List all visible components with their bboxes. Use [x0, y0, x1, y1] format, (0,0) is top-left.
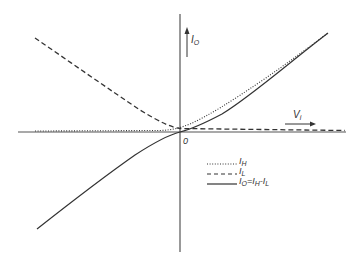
legend-label-ih: IH — [239, 157, 247, 166]
legend-io-l: L — [265, 180, 269, 187]
transfer-characteristic-diagram — [0, 0, 357, 269]
legend-io-sub: O — [242, 180, 247, 187]
legend-label-il: IL — [239, 167, 245, 176]
legend-io-h: H — [255, 180, 260, 187]
legend-il-sub: L — [242, 170, 246, 177]
vi-arrow-head — [310, 122, 316, 127]
x-label-sub: i — [300, 114, 302, 121]
x-label-main: V — [293, 109, 300, 120]
curve-io — [37, 33, 328, 229]
x-axis-label: Vi — [293, 110, 301, 120]
y-label-sub: O — [194, 39, 199, 46]
curve-ih — [35, 33, 328, 131]
legend-label-io: IO=IH-IL — [239, 177, 269, 186]
io-arrow-head — [185, 27, 190, 34]
legend-io-eq: =I — [247, 176, 255, 186]
legend-ih-sub: H — [242, 160, 247, 167]
y-axis-label: IO — [191, 35, 199, 45]
origin-label: 0 — [183, 137, 188, 146]
